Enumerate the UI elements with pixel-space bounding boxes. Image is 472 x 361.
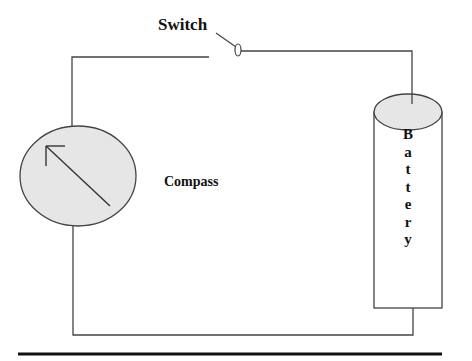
battery-letter: y bbox=[404, 231, 412, 249]
compass-label: Compass bbox=[164, 175, 218, 189]
wire-switch-to-battery bbox=[241, 51, 412, 104]
battery-letter: r bbox=[405, 214, 412, 232]
circuit-diagram: Switch Compass B a t t e r y bbox=[0, 0, 472, 361]
wire-battery-to-compass bbox=[73, 226, 413, 335]
battery-letter: t bbox=[406, 161, 411, 179]
battery-letter: B bbox=[403, 126, 413, 144]
battery-label: B a t t e r y bbox=[400, 126, 416, 249]
switch-label: Switch bbox=[158, 16, 207, 33]
battery-letter: t bbox=[406, 179, 411, 197]
battery-letter: e bbox=[405, 196, 412, 214]
switch-icon bbox=[216, 33, 241, 56]
battery-letter: a bbox=[404, 144, 412, 162]
wire-compass-to-switch bbox=[72, 57, 209, 127]
compass-icon bbox=[20, 126, 136, 226]
